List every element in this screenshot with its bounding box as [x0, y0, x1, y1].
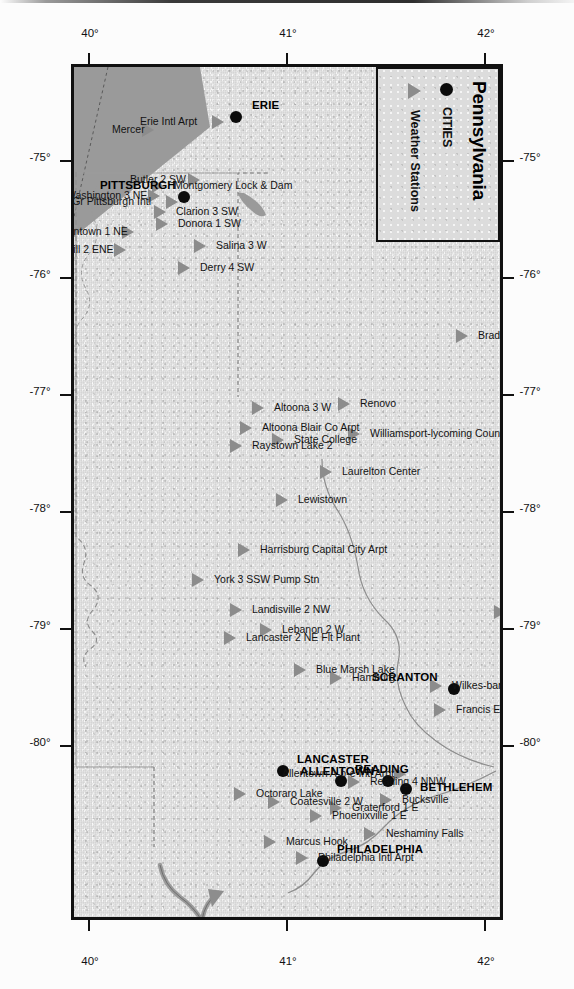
label-bradford-4-sw-res-5: Bradford 4 SW Res 5 [478, 329, 503, 341]
filled-triangle-icon [238, 543, 250, 557]
tick-left-41 [287, 53, 289, 64]
label-laurelton-center: Laurelton Center [342, 465, 420, 477]
station-marker-neshaminy-falls[interactable] [364, 827, 376, 841]
city-marker-erie[interactable] [230, 111, 242, 123]
filled-triangle-icon [434, 703, 446, 717]
station-marker-landisville-2-nw[interactable] [230, 603, 242, 617]
filled-triangle-icon [494, 605, 503, 619]
station-marker-altoona-3-w[interactable] [252, 401, 264, 415]
label-lewistown: Lewistown [298, 493, 347, 505]
filled-triangle-icon [230, 603, 242, 617]
station-marker-marcus-hook[interactable] [264, 835, 276, 849]
label-mercer: Mercer [112, 123, 145, 135]
filled-triangle-icon [276, 493, 288, 507]
filled-triangle-icon [456, 329, 468, 343]
label-octoraro-lake: Octoraro Lake [256, 787, 323, 799]
station-marker-donora-1-sw[interactable] [156, 217, 168, 231]
legend-item-weather-stations: Weather Stations [408, 83, 422, 212]
station-marker-lancaster-2-ne-flt-plant[interactable] [224, 631, 236, 645]
label-lancaster: LANCASTER [297, 753, 369, 765]
filled-triangle-icon [194, 239, 206, 253]
station-marker-phoenixville-1-e[interactable] [310, 809, 322, 823]
filled-triangle-icon [230, 439, 242, 453]
filled-triangle-icon [240, 421, 252, 435]
tick-top-77 [503, 394, 514, 396]
label-uniontown-1-ne: Uniontown 1 NE [71, 225, 128, 237]
label-philadelphia-intl-arpt: Philadelphia Intl Arpt [318, 851, 414, 863]
station-marker-york-3-ssw-pump-stn[interactable] [192, 573, 204, 587]
station-marker-bradford-4-sw-res-5[interactable] [456, 329, 468, 343]
legend-item-cities: CITIES [440, 83, 454, 147]
label-phoenixville-1-e: Phoenixville 1 E [332, 809, 407, 821]
label-salina-3-w: Salina 3 W [216, 239, 267, 251]
filled-triangle-icon [409, 83, 422, 99]
tick-bottom-78 [60, 511, 71, 513]
filled-triangle-icon [224, 631, 236, 645]
filled-triangle-icon [364, 827, 376, 841]
filled-triangle-icon [234, 787, 246, 801]
axis-label-bottom-80: -80° [29, 736, 50, 748]
tick-top-75 [503, 160, 514, 162]
filled-triangle-icon [212, 115, 224, 129]
station-marker-octoraro-lake[interactable] [234, 787, 246, 801]
filled-triangle-icon [338, 397, 350, 411]
rotated-canvas: -75° -76° -77° -78° -79° -80° -75° -76° … [0, 0, 574, 989]
filled-triangle-icon [156, 217, 168, 231]
tick-left-40 [89, 53, 91, 64]
axis-label-bottom-79: -79° [29, 619, 50, 631]
axis-label-top-77: -77° [519, 385, 540, 397]
station-marker-erie-intl-arpt[interactable] [212, 115, 224, 129]
label-harrisburg-capital-city-arpt: Harrisburg Capital City Arpt [260, 543, 387, 555]
tick-right-40 [89, 920, 91, 931]
filled-circle-icon [178, 191, 190, 203]
filled-triangle-icon [178, 261, 190, 275]
station-marker-salina-3-w[interactable] [194, 239, 206, 253]
tick-top-80 [503, 745, 514, 747]
label-hamburg: Hamburg [352, 671, 395, 683]
inland-lake [238, 193, 266, 216]
tick-bottom-80 [60, 745, 71, 747]
axis-label-left-40: 40° [81, 27, 98, 39]
label-renovo: Renovo [360, 397, 396, 409]
label-erie: ERIE [252, 99, 279, 111]
station-marker-renovo[interactable] [338, 397, 350, 411]
filled-triangle-icon [320, 465, 332, 479]
tick-right-41 [287, 920, 289, 931]
station-marker-raystown-lake-2[interactable] [230, 439, 242, 453]
city-marker-pittsburgh[interactable] [178, 191, 190, 203]
label-donora-1-sw: Donora 1 SW [178, 217, 241, 229]
axis-label-top-78: -78° [519, 502, 540, 514]
label-altoona-blair-co-arpt: Altoona Blair Co Arpt [262, 421, 359, 433]
label-erie-intl-arpt: Erie Intl Arpt [140, 115, 197, 127]
axis-label-bottom-77: -77° [29, 385, 50, 397]
axis-label-top-75: -75° [519, 151, 540, 163]
station-marker-laurelton-center[interactable] [320, 465, 332, 479]
label-neshaminy-falls: Neshaminy Falls [386, 827, 464, 839]
filled-triangle-icon [252, 401, 264, 415]
station-marker-lewistown[interactable] [276, 493, 288, 507]
label-altoona-3-w: Altoona 3 W [274, 401, 331, 413]
station-marker-montrose[interactable] [494, 605, 503, 619]
susquehanna-north-branch [322, 459, 494, 767]
map-legend: Pennsylvania CITIES Weather Stations [376, 67, 500, 242]
station-marker-blue-marsh-lake[interactable] [294, 663, 306, 677]
axis-label-bottom-76: -76° [29, 268, 50, 280]
label-reading-4-nnw: Reading 4 NNW [370, 775, 446, 787]
station-marker-derry-4-sw[interactable] [178, 261, 190, 275]
axis-label-right-42: 42° [477, 955, 494, 967]
label-wilkes-barre-scranton-arpt: Wilkes-barre Scranton Arpt [452, 679, 503, 691]
legend-item-weather-stations-label: Weather Stations [408, 110, 422, 212]
station-marker-philadelphia-intl-arpt[interactable] [296, 851, 308, 865]
station-marker-harrisburg-capital-city-arpt[interactable] [238, 543, 250, 557]
station-marker-altoona-blair-co-arpt[interactable] [240, 421, 252, 435]
legend-item-cities-label: CITIES [440, 107, 454, 147]
label-lebanon-2-w: Lebanon 2 W [282, 623, 344, 635]
filled-triangle-icon [114, 243, 126, 257]
axis-label-right-41: 41° [279, 955, 296, 967]
station-marker-francis-e-walter-dam[interactable] [434, 703, 446, 717]
axis-label-left-41: 41° [279, 27, 296, 39]
station-marker-chalk-hill-2-ene[interactable] [114, 243, 126, 257]
tick-bottom-77 [60, 394, 71, 396]
axis-label-bottom-75: -75° [29, 151, 50, 163]
label-marcus-hook: Marcus Hook [286, 835, 348, 847]
